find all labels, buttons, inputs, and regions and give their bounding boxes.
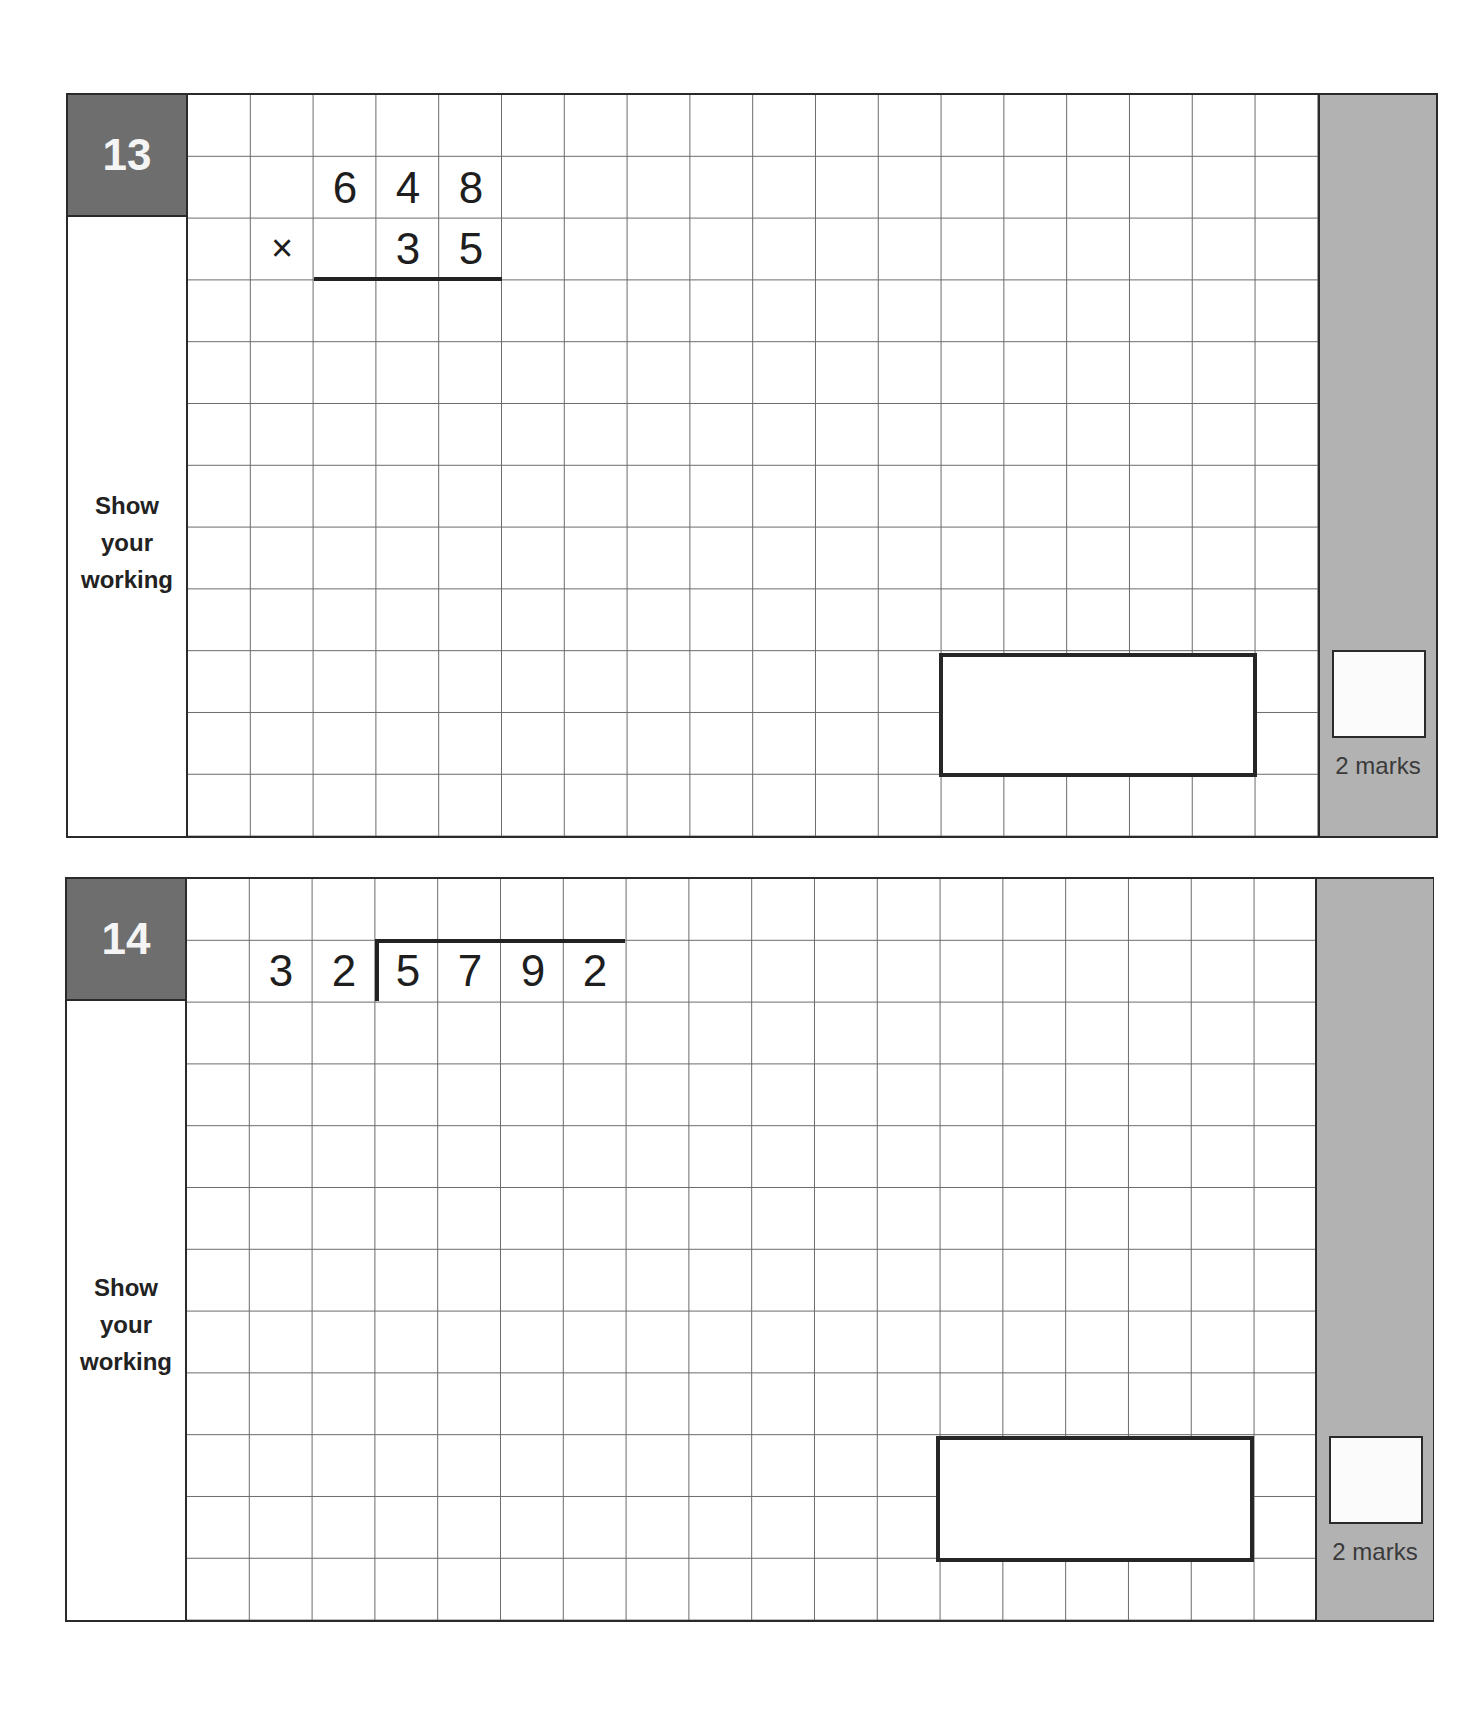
dividend-digit: 5 — [377, 940, 439, 1001]
marks-label: 2 marks — [1320, 752, 1436, 780]
multiplicand-digit: 8 — [440, 157, 502, 218]
marks-column: 2 marks — [1318, 95, 1436, 836]
multiplier-digit: 5 — [440, 218, 502, 279]
working-grid[interactable]: 6 4 8 × 3 5 — [188, 95, 1318, 836]
divisor-digit: 2 — [313, 940, 375, 1001]
show-working-label: Show your working — [67, 1269, 185, 1380]
show-working-label: Show your working — [68, 487, 186, 598]
marks-box — [1332, 650, 1426, 738]
marks-column: 2 marks — [1315, 879, 1433, 1620]
question-number: 14 — [102, 914, 151, 964]
question-number-badge: 13 — [68, 95, 188, 217]
question-number: 13 — [103, 130, 152, 180]
dividend-digit: 2 — [564, 940, 626, 1001]
question-number-badge: 14 — [67, 879, 187, 1001]
divisor-digit: 3 — [250, 940, 312, 1001]
marks-label: 2 marks — [1317, 1538, 1433, 1566]
answer-box[interactable] — [939, 653, 1257, 777]
multiplication-underline — [314, 277, 502, 281]
multiplicand-digit: 6 — [314, 157, 376, 218]
dividend-digit: 7 — [439, 940, 501, 1001]
multiplicand-digit: 4 — [377, 157, 439, 218]
multiplier-digit: 3 — [377, 218, 439, 279]
dividend-digit: 9 — [502, 940, 564, 1001]
multiply-sign: × — [251, 218, 313, 279]
show-working-panel: Show your working — [68, 217, 188, 836]
show-working-panel: Show your working — [67, 1001, 187, 1620]
question-14: 14 Show your working 3 2 5 7 9 2 2 marks — [65, 877, 1434, 1622]
marks-box — [1329, 1436, 1423, 1524]
question-13: 13 Show your working 6 4 8 × 3 5 2 marks — [66, 93, 1438, 838]
working-grid[interactable]: 3 2 5 7 9 2 — [187, 879, 1315, 1620]
answer-box[interactable] — [936, 1436, 1254, 1562]
